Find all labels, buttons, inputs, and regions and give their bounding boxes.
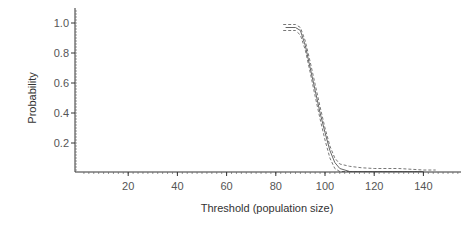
x-tick-label: 40 bbox=[171, 180, 183, 192]
y-tick-label: 0.8 bbox=[54, 47, 69, 59]
y-axis: 0.20.40.60.81.0 bbox=[54, 8, 77, 172]
x-axis: 20406080100120140 bbox=[75, 172, 461, 192]
y-tick-label: 1.0 bbox=[54, 17, 69, 29]
x-axis-title: Threshold (population size) bbox=[201, 202, 334, 214]
x-tick-label: 80 bbox=[270, 180, 282, 192]
y-tick-label: 0.2 bbox=[54, 137, 69, 149]
y-tick-label: 0.4 bbox=[54, 107, 69, 119]
x-tick-label: 140 bbox=[414, 180, 432, 192]
series-estimate bbox=[286, 28, 424, 172]
y-tick-label: 0.6 bbox=[54, 77, 69, 89]
plot-area bbox=[283, 25, 436, 172]
probability-threshold-chart: 0.20.40.60.81.0 20406080100120140 Probab… bbox=[0, 0, 472, 227]
x-tick-label: 20 bbox=[122, 180, 134, 192]
series-lower-bound bbox=[283, 31, 423, 172]
x-tick-label: 100 bbox=[316, 180, 334, 192]
series-upper-bound bbox=[283, 25, 436, 171]
y-axis-title: Probability bbox=[26, 72, 38, 124]
x-tick-label: 120 bbox=[365, 180, 383, 192]
x-tick-label: 60 bbox=[220, 180, 232, 192]
